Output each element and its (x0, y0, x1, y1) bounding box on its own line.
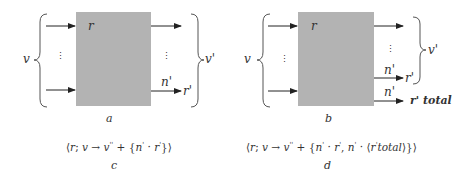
vdots-right-a: ⋮ (162, 52, 171, 61)
formula-d-plus: + { (293, 141, 315, 153)
process-box-b (298, 12, 374, 106)
vdots-left-a: ⋮ (56, 52, 65, 61)
formula-d-arrow: → (268, 141, 283, 153)
formula-c-close: }⟩ (161, 141, 172, 153)
formula-c-plus: + { (113, 141, 135, 153)
left-brace-a (34, 14, 47, 107)
vdots-left-b: ⋮ (280, 55, 289, 64)
n-label-b-2: n' (384, 86, 395, 98)
formula-c-dot: · (144, 141, 154, 153)
right-brace-a (191, 14, 204, 107)
formula-d-comma: , (341, 141, 348, 153)
n-label-a: n' (161, 76, 172, 88)
formula-c-semi: ; (75, 141, 82, 153)
box-label-a: r (88, 20, 94, 32)
caption-a: a (106, 113, 113, 124)
output-r-label-b: r' (405, 72, 414, 84)
formula-c: ⟨r; v → v'' + {n' · r'}⟩ (66, 142, 172, 153)
formula-c-arrow: → (88, 141, 103, 153)
formula-d-total: total (378, 141, 402, 153)
output-group-label-a: v' (205, 53, 215, 65)
formula-d-dot: · (324, 141, 334, 153)
formula-d-semi: ; (255, 141, 262, 153)
formula-d-dot2: · ⟨ (356, 141, 370, 153)
output-total-label-b: r' total (410, 95, 452, 106)
left-brace-b (257, 14, 270, 107)
right-brace-b (413, 17, 426, 84)
input-label-b: v (244, 53, 251, 65)
box-label-b: r (311, 20, 317, 32)
vdots-right-b: ⋮ (386, 45, 395, 54)
caption-d: d (324, 160, 331, 171)
formula-d: ⟨r; v → v'' + {n' · r', n' · ⟨r'total⟩}⟩ (246, 142, 417, 153)
formula-d-close: ⟩}⟩ (402, 141, 417, 153)
diagram-lines (0, 0, 466, 180)
caption-c: c (111, 160, 117, 171)
output-r-label-a: r' (183, 85, 192, 97)
n-label-b-1: n' (384, 64, 395, 76)
input-label-a: v (23, 53, 30, 65)
output-group-label-b: v' (428, 44, 438, 56)
formula-d-n2: n (348, 141, 355, 153)
caption-b: b (325, 113, 332, 124)
